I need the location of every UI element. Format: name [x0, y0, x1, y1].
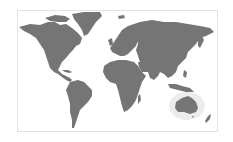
- region-arctic-islands[interactable]: [45, 15, 70, 22]
- region-philippines[interactable]: [183, 70, 187, 78]
- region-south-america[interactable]: [66, 80, 92, 128]
- region-iceland[interactable]: [118, 15, 125, 19]
- region-se-asia-islands[interactable]: [168, 84, 194, 92]
- region-new-zealand[interactable]: [205, 114, 211, 123]
- world-map: [0, 0, 233, 142]
- region-madagascar[interactable]: [138, 94, 141, 104]
- region-caribbean[interactable]: [62, 70, 72, 73]
- region-north-america[interactable]: [19, 22, 82, 82]
